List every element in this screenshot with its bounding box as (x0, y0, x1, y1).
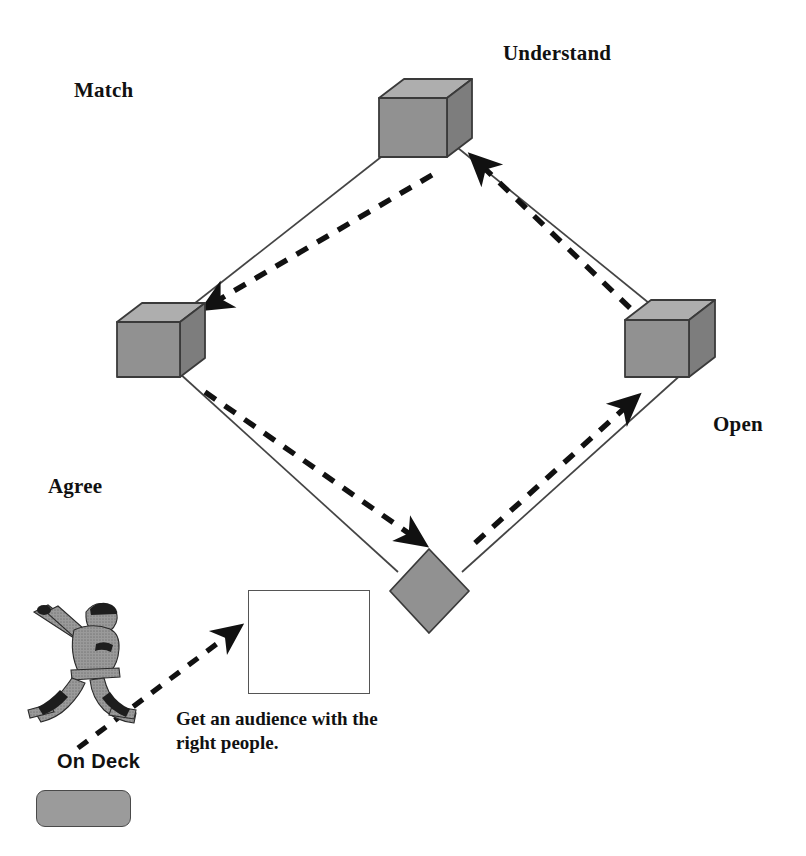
baseball-batter-clipart (28, 603, 136, 723)
dashed-flow-arrows (205, 165, 630, 543)
flow-match-to-agree (205, 392, 414, 537)
cube-match (117, 303, 205, 377)
connector-layer (0, 0, 806, 856)
cube-understand (379, 79, 472, 157)
edge-agree-open (462, 372, 684, 572)
cube-match-front (117, 322, 180, 377)
solid-edges (176, 148, 684, 572)
edge-understand-match (176, 150, 390, 318)
node-label-match: Match (74, 78, 133, 103)
on-deck-swatch (36, 790, 131, 827)
cube-open (625, 300, 715, 377)
on-deck-label: On Deck (57, 750, 140, 773)
node-label-understand: Understand (503, 41, 611, 66)
callout-caption: Get an audience with the right people. (176, 707, 396, 755)
diamond-agree-face (390, 549, 469, 633)
cube-open-front (625, 320, 689, 377)
node-label-agree: Agree (48, 474, 102, 499)
callout-box (248, 590, 370, 694)
node-label-open: Open (713, 412, 763, 437)
flow-open-to-understand (481, 165, 630, 308)
flow-agree-to-open (475, 405, 628, 543)
cube-agree-diamond (390, 549, 469, 633)
cube-understand-front (379, 98, 447, 157)
edge-match-agree (178, 372, 398, 572)
diagram-canvas: Match Understand Open Agree Get an audie… (0, 0, 806, 856)
flow-understand-to-match (215, 175, 432, 302)
